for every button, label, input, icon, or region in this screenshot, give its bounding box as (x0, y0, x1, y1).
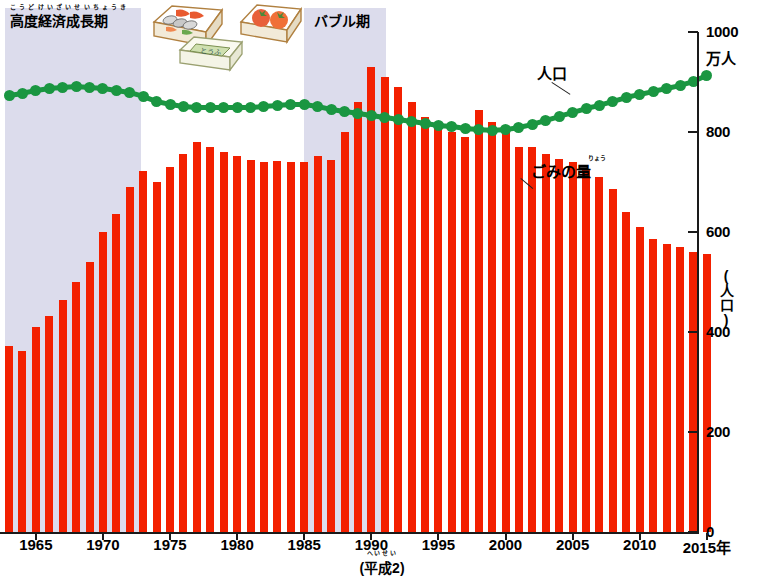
population-point-1975 (165, 99, 176, 110)
garbage-label-text: ごみの量 (531, 163, 591, 180)
bar-1993 (408, 102, 416, 532)
population-point-1986 (312, 101, 323, 112)
population-point-2003 (540, 115, 551, 126)
bar-1980 (233, 156, 241, 532)
x-tick-label-1965: 1965 (1, 536, 71, 553)
y-tick-200 (688, 431, 698, 433)
y-axis-title: (人口) (716, 268, 736, 328)
y-tick-1000 (688, 31, 698, 33)
population-point-1985 (299, 99, 310, 110)
heisei-note-text: (平成2) (359, 560, 404, 576)
population-label-text: 人口 (537, 65, 567, 82)
garbage-label-ruby: りょう (588, 155, 606, 161)
bar-1977 (193, 142, 201, 532)
population-point-1974 (151, 96, 162, 107)
x-tick-label-2010: 2010 (605, 536, 675, 553)
population-point-1999 (487, 125, 498, 136)
population-point-1965 (30, 85, 41, 96)
heisei-note: へいせい (平成2) (336, 550, 428, 577)
population-point-1988 (339, 106, 350, 117)
bar-1991 (381, 77, 389, 532)
y-tick-400 (688, 331, 698, 333)
population-point-2005 (567, 107, 578, 118)
population-point-1984 (285, 99, 296, 110)
bar-1985 (300, 162, 308, 532)
bar-2012 (663, 244, 671, 532)
bar-2000 (502, 132, 510, 532)
population-point-1978 (205, 102, 216, 113)
bar-2008 (609, 189, 617, 532)
population-point-1979 (218, 102, 229, 113)
bar-1966 (45, 316, 53, 532)
bar-1990 (367, 67, 375, 532)
bar-1987 (327, 160, 335, 532)
population-point-2015 (701, 70, 712, 81)
bar-2015 (703, 254, 711, 532)
y-tick-0 (688, 531, 698, 533)
bar-1976 (179, 154, 187, 532)
x-tick-label-1985: 1985 (269, 536, 339, 553)
bar-2003 (542, 154, 550, 532)
y-tick-label-600: 600 (706, 223, 730, 240)
y-axis-line (697, 32, 699, 534)
population-point-1981 (245, 102, 256, 113)
y-unit-label: 万人 (706, 47, 736, 68)
population-point-1968 (71, 81, 82, 92)
bar-1989 (354, 102, 362, 532)
bar-1975 (166, 167, 174, 532)
population-point-1973 (138, 91, 149, 102)
bar-2001 (515, 147, 523, 532)
population-point-2001 (513, 122, 524, 133)
population-point-1969 (84, 82, 95, 93)
population-point-1983 (272, 100, 283, 111)
population-point-1998 (473, 124, 484, 135)
population-point-2012 (661, 83, 672, 94)
population-point-1967 (57, 82, 68, 93)
population-point-1966 (44, 83, 55, 94)
y-tick-label-200: 200 (706, 423, 730, 440)
population-point-2009 (621, 92, 632, 103)
bar-1969 (86, 262, 94, 532)
population-point-2011 (648, 86, 659, 97)
bar-1971 (112, 214, 120, 532)
bar-1982 (260, 162, 268, 532)
population-point-1977 (191, 102, 202, 113)
bar-1994 (421, 117, 429, 532)
x-axis-line (0, 532, 699, 534)
population-point-2006 (581, 103, 592, 114)
x-tick-label-2000: 2000 (471, 536, 541, 553)
chart-canvas: こうどけいざいせいちょうき 高度経済成長期 バブル期 (0, 0, 773, 579)
population-point-1963 (4, 90, 15, 101)
population-point-1972 (124, 87, 135, 98)
bar-2009 (622, 212, 630, 532)
population-point-2000 (500, 124, 511, 135)
heisei-note-ruby: へいせい (336, 550, 428, 557)
bar-2010 (636, 227, 644, 532)
x-tick-label-1970: 1970 (68, 536, 138, 553)
bar-2011 (649, 239, 657, 532)
bar-1986 (314, 156, 322, 532)
population-point-1995 (433, 120, 444, 131)
bar-1978 (206, 147, 214, 532)
population-point-1992 (393, 114, 404, 125)
bar-1996 (448, 132, 456, 532)
y-tick-label-1000: 1000 (706, 23, 738, 40)
population-point-1987 (326, 104, 337, 115)
bar-2006 (582, 169, 590, 532)
bar-1965 (32, 327, 40, 532)
garbage-label: りょう ごみの量 (531, 160, 591, 181)
population-point-1997 (460, 123, 471, 134)
population-point-1964 (17, 88, 28, 99)
bar-2013 (676, 247, 684, 532)
bar-1988 (341, 132, 349, 532)
bar-1983 (273, 161, 281, 532)
bar-1968 (72, 282, 80, 532)
x-tick-label-2015: 2015年 (672, 536, 742, 557)
bar-1964 (18, 351, 26, 532)
bar-1981 (247, 160, 255, 532)
bar-1963 (5, 346, 13, 532)
population-point-1989 (352, 108, 363, 119)
bar-1997 (461, 137, 469, 532)
y-tick-800 (688, 131, 698, 133)
series-layer (0, 0, 773, 579)
